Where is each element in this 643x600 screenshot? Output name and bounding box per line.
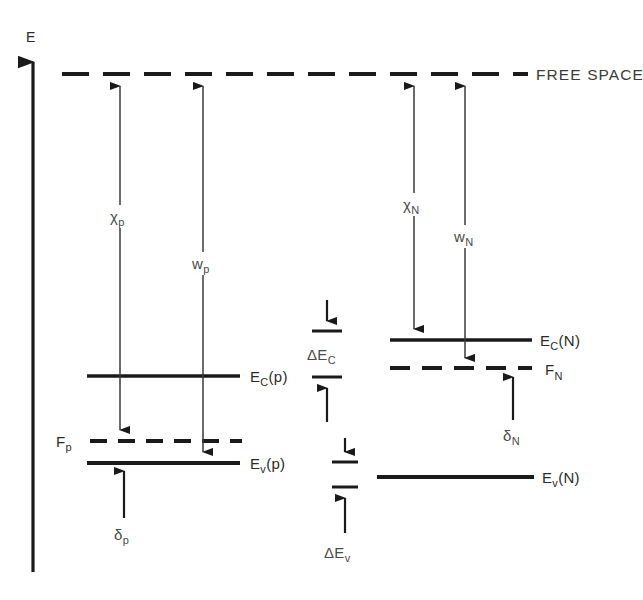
level-fn-label: FN [545, 361, 563, 382]
arrow-delta-p-label: δp [114, 526, 129, 546]
arrow-delta-n-label: δN [503, 427, 520, 447]
arrow-w-p-label: wp [191, 255, 210, 275]
level-free-space-label: FREE SPACE [536, 66, 643, 83]
level-ec-n-label: EC(N) [540, 332, 580, 352]
level-ev-n-label: Ev(N) [542, 469, 580, 489]
gap-delta-ec-label: ΔEC [307, 346, 336, 366]
gap-delta-ev [332, 438, 358, 533]
arrow-w-n-label: wN [453, 228, 473, 248]
arrow-chi-p-label: χp [110, 208, 125, 228]
level-ev-p-label: Ev(p) [250, 455, 285, 475]
arrow-chi-n-label: χN [403, 196, 419, 216]
level-ec-p-label: EC(p) [250, 368, 288, 388]
energy-axis-label: E [26, 29, 36, 45]
energy-band-diagram: E FREE SPACE EC(p) Fp Ev(p) EC(N) FN Ev(… [0, 0, 643, 600]
level-fp-label: Fp [56, 433, 72, 453]
gap-delta-ev-label: ΔEv [324, 544, 351, 564]
